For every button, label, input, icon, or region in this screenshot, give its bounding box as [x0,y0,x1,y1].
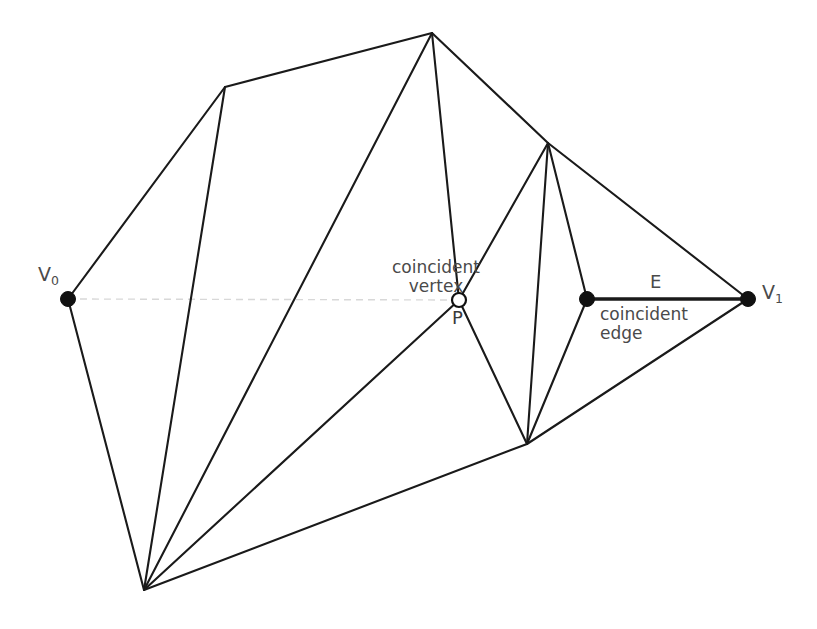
vertex-label-v0-text: V [38,263,51,285]
vertex-label-v1: V1 [762,282,783,303]
axis-layer [68,299,459,300]
mesh-edge-v0-bottom [68,299,144,590]
vertex-label-v1-text: V [762,281,775,303]
mesh-edge-topleft-bottom [144,87,225,590]
mesh-edge-topleft-apex [225,33,432,87]
mesh-edge-apex-rightfan [432,33,548,143]
vertex-label-v1-subscript: 1 [775,291,783,306]
mesh-edge-p-bottom [144,300,459,590]
mesh-edge-rightfan-v1 [548,143,748,299]
vertex-marker-v0 [61,292,76,307]
vertex-label-v0: V0 [38,264,59,285]
edge-label-e: E [650,272,661,292]
annotation-coincident-edge: coincident edge [600,305,720,343]
vertex-label-p: P [452,308,463,328]
vertex-marker-v1 [741,292,756,307]
mesh-edge-v0-topleft [68,87,225,299]
diagram-canvas: V0 V1 coincident vertex P E coincident e… [0,0,817,629]
mesh-edge-rightfan-e0 [548,143,587,299]
mesh-edge-apex-bottom [144,33,432,590]
mesh-edge-lowermid-bottom [144,444,527,590]
axis-dashed-segment [68,299,459,300]
vertex-marker-e0 [580,292,595,307]
mesh-edge-p-lowermid [459,300,527,444]
annotation-coincident-vertex: coincident vertex [384,258,488,296]
vertex-label-v0-subscript: 0 [51,273,59,288]
